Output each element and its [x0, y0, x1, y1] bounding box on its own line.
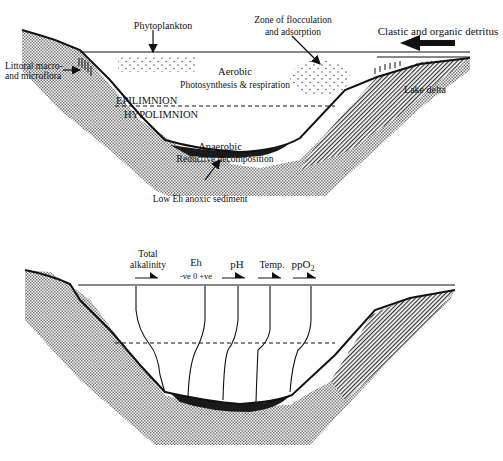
epilimnion-label: EPILIMNION	[116, 95, 178, 106]
detritus-arrow	[400, 35, 455, 51]
hypolimnion-label: HYPOLIMNION	[124, 109, 198, 120]
clastic-label: Clastic and organic detritus	[378, 25, 498, 37]
lake-diagram: Phytoplankton Zone of flocculation and a…	[0, 0, 503, 461]
alkalinity-label-2: alkalinity	[130, 260, 166, 270]
aerobic-label: Aerobic	[218, 66, 252, 77]
littoral-label-1: Littoral macro-	[5, 61, 63, 71]
bottom-panel: Total alkalinity Eh -ve 0 +ve pH Temp. p…	[25, 249, 455, 445]
alkalinity-label-1: Total	[138, 249, 158, 259]
lake-delta-label: Lake delta	[404, 84, 446, 95]
littoral-label-2: and microflora	[5, 71, 62, 81]
eh-label: Eh	[190, 257, 202, 268]
low-eh-label: Low Eh anoxic sediment	[153, 194, 248, 204]
phytoplankton-label: Phytoplankton	[134, 20, 192, 31]
temp-label: Temp.	[259, 259, 284, 270]
ppo2-label: ppO2	[292, 258, 315, 273]
top-panel: Phytoplankton Zone of flocculation and a…	[5, 15, 498, 204]
photosynthesis-label: Photosynthesis & respiration	[180, 80, 290, 90]
ph-label: pH	[230, 258, 244, 270]
anaerobic-label: Anaerobic	[198, 141, 242, 152]
reductive-label: Reductive decomposition	[177, 154, 274, 164]
zone-label-2: and adsorption	[265, 27, 321, 37]
eh-scale-label: -ve 0 +ve	[180, 271, 212, 281]
zone-label-1: Zone of flocculation	[254, 15, 332, 25]
